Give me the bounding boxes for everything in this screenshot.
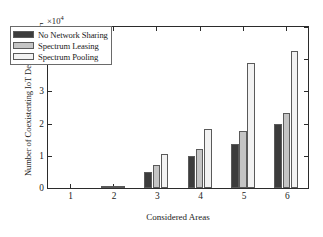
x-axis-tick-label: 3 bbox=[151, 191, 163, 201]
y-axis-exponent-power: 4 bbox=[60, 14, 63, 21]
bar-no-network-sharing-area-6 bbox=[274, 124, 282, 188]
y-axis-tick: 2 bbox=[48, 124, 52, 125]
legend-item-label: No Network Sharing bbox=[38, 30, 108, 40]
y-axis-tick-mirror bbox=[304, 156, 308, 157]
x-axis-tick-label: 2 bbox=[108, 191, 120, 201]
x-axis-tick-mirror bbox=[286, 27, 287, 31]
legend-item: Spectrum Leasing bbox=[13, 40, 108, 51]
y-axis-tick-mirror bbox=[304, 188, 308, 189]
bar-no-network-sharing-area-3 bbox=[144, 172, 152, 188]
y-axis-tick-label: 0 bbox=[39, 183, 44, 193]
y-axis-tick-label: 2 bbox=[39, 119, 44, 129]
bar-spectrum-leasing-area-6 bbox=[283, 113, 291, 188]
x-axis-tick-label: 6 bbox=[281, 191, 293, 201]
y-axis-tick: 3 bbox=[48, 91, 52, 92]
bar-spectrum-pooling-area-6 bbox=[291, 51, 299, 188]
bar-spectrum-leasing-area-3 bbox=[153, 165, 161, 188]
y-axis-tick-mirror bbox=[304, 124, 308, 125]
x-axis-tick-label: 4 bbox=[195, 191, 207, 201]
bar-spectrum-pooling-area-2 bbox=[117, 186, 125, 188]
bar-spectrum-pooling-area-3 bbox=[161, 154, 169, 188]
bar-spectrum-pooling-area-4 bbox=[204, 129, 212, 188]
bar-spectrum-leasing-area-5 bbox=[239, 131, 247, 188]
x-axis-tick-mirror bbox=[156, 27, 157, 31]
y-axis-tick-label: 1 bbox=[39, 151, 44, 161]
y-axis-exponent-base: ×10 bbox=[47, 16, 60, 26]
x-axis-tick-mirror bbox=[200, 27, 201, 31]
x-axis-tick: 1 bbox=[70, 184, 71, 188]
y-axis-tick-mirror bbox=[304, 59, 308, 60]
x-axis-tick-mirror bbox=[113, 27, 114, 31]
y-axis-tick-label: 3 bbox=[39, 86, 44, 96]
x-axis-tick-label: 1 bbox=[65, 191, 77, 201]
legend-item: No Network Sharing bbox=[13, 29, 108, 40]
x-axis-tick-label: 5 bbox=[238, 191, 250, 201]
bar-no-network-sharing-area-4 bbox=[188, 156, 196, 188]
y-axis-tick: 1 bbox=[48, 156, 52, 157]
legend-item-label: Spectrum Pooling bbox=[38, 52, 98, 62]
legend-swatch-icon bbox=[13, 53, 34, 61]
x-axis-tick-mirror bbox=[243, 27, 244, 31]
y-axis-exponent-label: ×104 bbox=[47, 14, 64, 26]
bar-spectrum-leasing-area-2 bbox=[109, 186, 117, 188]
y-axis-tick-mirror bbox=[304, 27, 308, 28]
legend-swatch-icon bbox=[13, 42, 34, 50]
legend-swatch-icon bbox=[13, 31, 34, 39]
y-axis-tick-mirror bbox=[304, 91, 308, 92]
chart-legend: No Network SharingSpectrum LeasingSpectr… bbox=[10, 26, 112, 65]
bar-spectrum-pooling-area-5 bbox=[247, 63, 255, 188]
bar-no-network-sharing-area-2 bbox=[101, 186, 109, 188]
bar-spectrum-leasing-area-4 bbox=[196, 149, 204, 188]
x-axis-title: Considered Areas bbox=[47, 212, 309, 222]
y-axis-tick: 0 bbox=[48, 188, 52, 189]
bar-chart-figure: Number of Coexistenting IoT Devices ×104… bbox=[0, 0, 323, 237]
legend-item: Spectrum Pooling bbox=[13, 51, 108, 62]
bar-no-network-sharing-area-5 bbox=[231, 144, 239, 188]
legend-item-label: Spectrum Leasing bbox=[38, 41, 99, 51]
